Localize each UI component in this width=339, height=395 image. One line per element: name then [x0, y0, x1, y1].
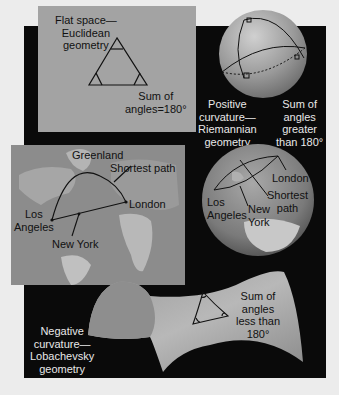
- lobachevsky-sum-label: Sum of angles less than 180°: [236, 290, 280, 340]
- lobachevsky-title: Negative curvature— Lobachevsky geometry: [30, 325, 94, 375]
